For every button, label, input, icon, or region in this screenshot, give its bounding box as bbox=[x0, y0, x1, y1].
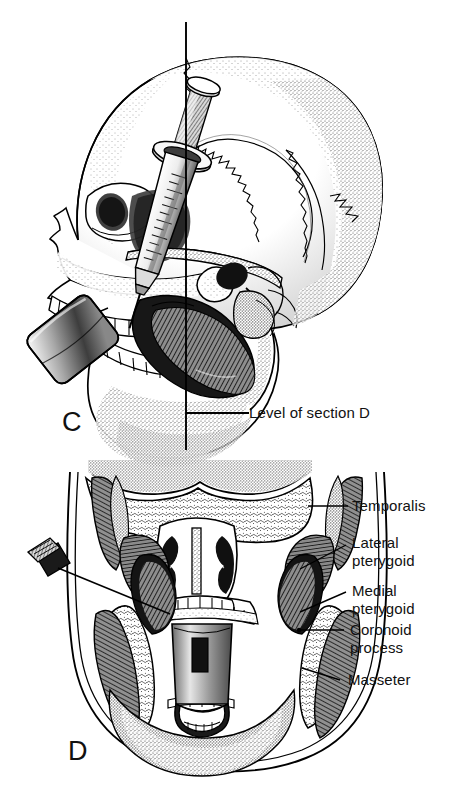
label-medial-pterygoid-line1: Medial bbox=[352, 582, 397, 599]
section-level-label: Level of section D bbox=[249, 404, 370, 421]
mouth-prop-d bbox=[172, 624, 232, 737]
label-lateral-pterygoid-line1: Lateral bbox=[352, 534, 399, 551]
label-medial-pterygoid-line2: pterygoid bbox=[352, 600, 415, 617]
label-coronoid-process-line2: process bbox=[350, 639, 403, 656]
label-masseter: Masseter bbox=[348, 671, 411, 688]
label-lateral-pterygoid-line2: pterygoid bbox=[352, 552, 415, 569]
panel-d-illustration bbox=[28, 460, 387, 776]
label-temporalis: Temporalis bbox=[352, 497, 426, 514]
label-coronoid-process-line1: Coronoid bbox=[350, 621, 412, 638]
panel-c-illustration bbox=[24, 22, 383, 467]
panel-c-letter: C bbox=[62, 409, 82, 436]
nasal-septum bbox=[192, 528, 201, 594]
anatomical-figure: Level of section D C D Temporalis Latera… bbox=[0, 0, 454, 792]
panel-d-letter: D bbox=[68, 738, 88, 765]
